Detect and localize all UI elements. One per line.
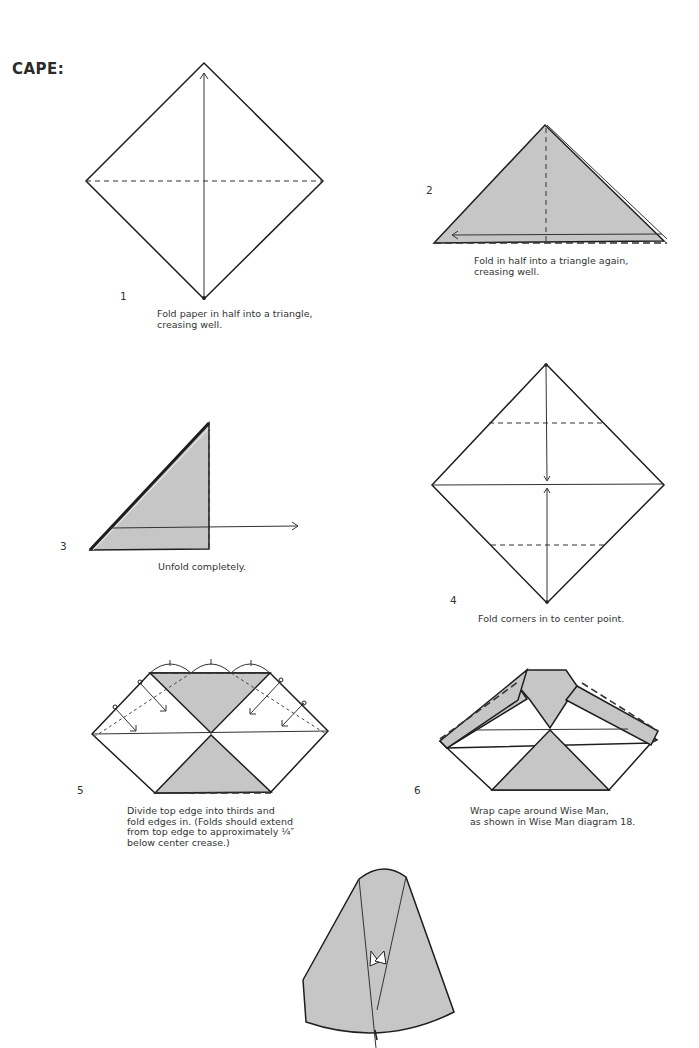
step-number: 3 xyxy=(60,540,67,552)
step-6-diagram xyxy=(440,670,658,790)
step-caption: Unfold completely. xyxy=(158,562,246,573)
step-5-diagram xyxy=(92,659,328,793)
finished-cape-diagram xyxy=(303,869,454,1048)
step-caption: Wrap cape around Wise Man, as shown in W… xyxy=(470,806,635,827)
step-number: 2 xyxy=(426,184,433,196)
step-number: 1 xyxy=(120,290,127,302)
step-caption: Fold corners in to center point. xyxy=(478,614,624,625)
step-number: 5 xyxy=(77,784,84,796)
step-2-diagram xyxy=(434,125,667,243)
origami-diagrams xyxy=(0,0,699,1048)
step-1-diagram xyxy=(86,63,323,300)
step-caption: Divide top edge into thirds and fold edg… xyxy=(127,806,294,848)
step-number: 6 xyxy=(414,784,421,796)
step-caption: Fold paper in half into a triangle, crea… xyxy=(157,309,313,330)
step-3-diagram xyxy=(90,423,298,550)
step-number: 4 xyxy=(450,594,457,606)
step-4-diagram xyxy=(432,363,664,604)
step-caption: Fold in half into a triangle again, crea… xyxy=(474,256,628,277)
